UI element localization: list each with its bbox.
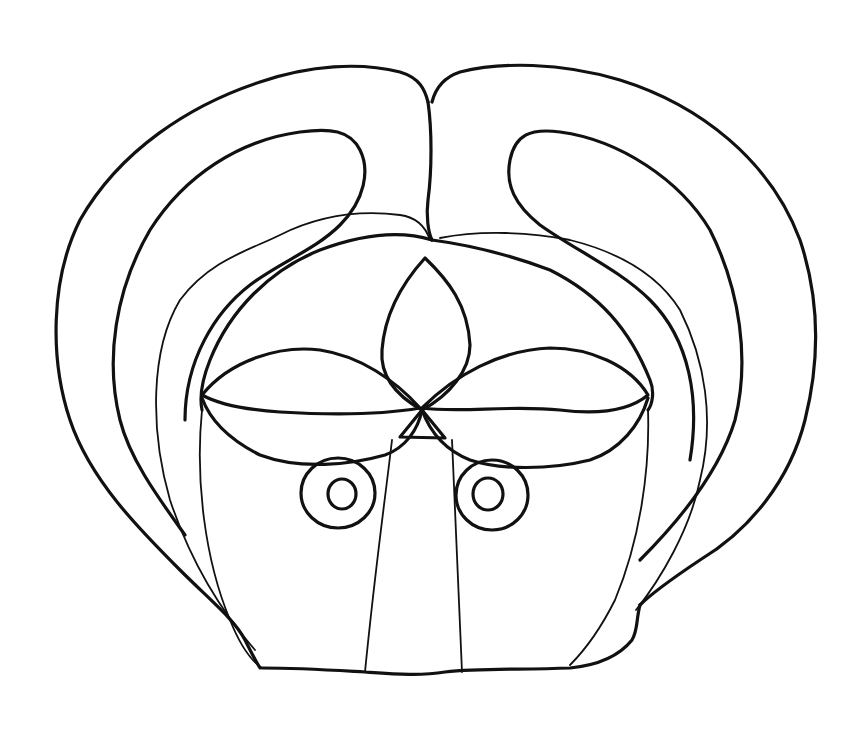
right-eye-inner-ring-icon (473, 478, 503, 510)
right-eye-outer-ring-icon (456, 460, 528, 530)
base-line (262, 605, 640, 674)
inner-left-scroll (113, 130, 365, 535)
inner-right-scroll (509, 131, 742, 560)
face-dome-left (201, 235, 432, 410)
mask-drawing (0, 0, 859, 736)
left-eyelid-leaf (202, 349, 420, 414)
thin-right-arc (440, 233, 707, 610)
right-eyelid-leaf (422, 348, 648, 412)
outer-right-lobe (432, 65, 816, 605)
central-teardrop (382, 258, 470, 410)
face-left-side (200, 410, 262, 668)
center-seam (427, 102, 432, 240)
left-eye-inner-ring-icon (328, 479, 356, 509)
face-dome-right (432, 240, 653, 410)
thin-left-arc (156, 213, 430, 650)
nose-band-right (452, 440, 462, 672)
left-eye-lower-lid (202, 398, 422, 464)
left-eye-outer-ring-icon (301, 458, 375, 528)
